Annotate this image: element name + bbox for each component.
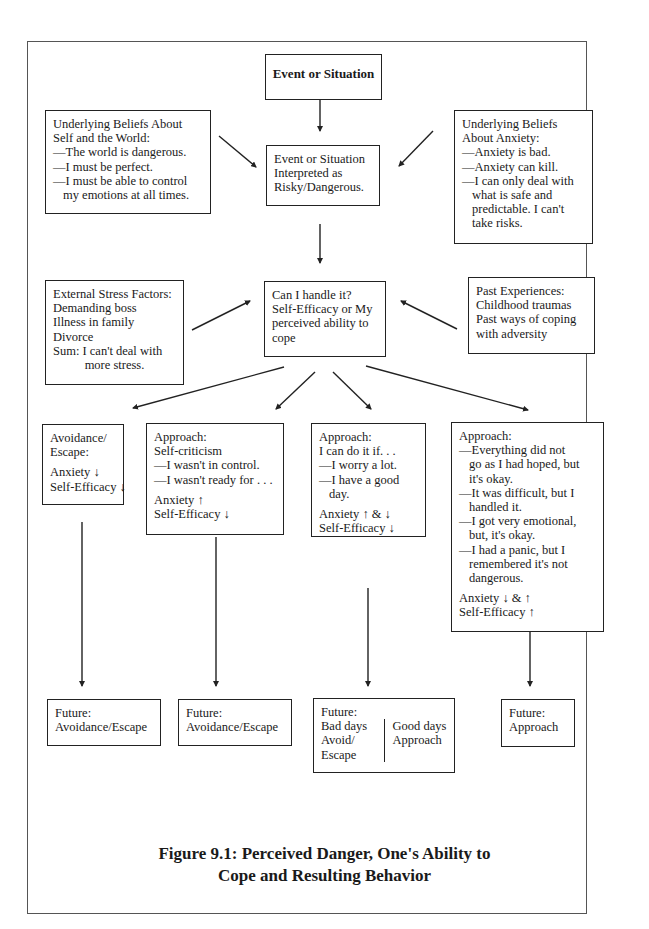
anxiety-indicator: Anxiety ↑: [154, 493, 276, 507]
node-approach-acceptance: Approach: —Everything did not go as I ha…: [451, 422, 604, 632]
text-line: Future:: [186, 706, 284, 720]
text-line: —I must be perfect.: [53, 160, 203, 174]
text-line: Self-criticism: [154, 444, 276, 458]
node-beliefs-self-world: Underlying Beliefs About Self and the Wo…: [45, 110, 211, 214]
text-line: take risks.: [462, 216, 585, 230]
text-line: Childhood traumas: [476, 298, 587, 312]
text-line: Risky/Dangerous.: [274, 180, 372, 194]
text-line: Can I handle it?: [272, 288, 378, 302]
node-approach-conditional: Approach: I can do it if. . . —I worry a…: [311, 423, 426, 537]
column-divider: [384, 719, 385, 762]
node-approach-self-criticism: Approach: Self-criticism —I wasn't in co…: [146, 423, 284, 535]
text-line: my emotions at all times.: [53, 188, 203, 202]
node-title: Event or Situation: [273, 66, 375, 81]
text-line: Future:: [55, 706, 153, 720]
anxiety-indicator: Anxiety ↓ & ↑: [459, 591, 596, 605]
text-line: —I can only deal with: [462, 174, 585, 188]
text-line: Approach: [393, 733, 448, 747]
text-line: Approach:: [154, 430, 276, 444]
node-self-efficacy: Can I handle it? Self-Efficacy or My per…: [264, 281, 386, 357]
text-line: remembered it's not: [459, 557, 596, 571]
text-line: Approach: [509, 720, 567, 734]
text-line: but, it's okay.: [459, 528, 596, 542]
good-days-column: Good days Approach: [393, 719, 448, 762]
text-line: —The world is dangerous.: [53, 145, 203, 159]
node-past-experiences: Past Experiences: Childhood traumas Past…: [468, 277, 595, 354]
text-line: Underlying Beliefs: [462, 117, 585, 131]
text-line: Avoidance/Escape: [186, 720, 284, 734]
node-avoidance-escape: Avoidance/ Escape: Anxiety ↓ Self-Effica…: [42, 424, 124, 505]
self-efficacy-indicator: Self-Efficacy ↓: [319, 521, 418, 535]
text-line: more stress.: [53, 358, 176, 372]
text-line: dangerous.: [459, 571, 596, 585]
node-external-stress: External Stress Factors: Demanding boss …: [45, 280, 184, 385]
text-line: Event or Situation: [274, 152, 372, 166]
text-line: Illness in family: [53, 315, 176, 329]
text-line: I can do it if. . .: [319, 444, 418, 458]
node-future-approach: Future: Approach: [501, 699, 575, 747]
node-future-mixed: Future: Bad days Avoid/ Escape Good days…: [313, 698, 455, 773]
node-event-or-situation: Event or Situation: [265, 54, 382, 100]
text-line: —Anxiety can kill.: [462, 160, 585, 174]
node-future-avoidance-1: Future: Avoidance/Escape: [47, 699, 161, 746]
text-line: Approach:: [319, 430, 418, 444]
text-line: About Anxiety:: [462, 131, 585, 145]
figure-caption: Figure 9.1: Perceived Danger, One's Abil…: [0, 843, 649, 887]
text-line: Underlying Beliefs About: [53, 117, 203, 131]
text-line: Self-Efficacy or My: [272, 302, 378, 316]
text-line: Avoidance/: [50, 431, 116, 445]
text-line: cope: [272, 331, 378, 345]
future-split: Bad days Avoid/ Escape Good days Approac…: [321, 719, 447, 762]
self-efficacy-indicator: Self-Efficacy ↑: [459, 605, 596, 619]
text-line: Escape:: [50, 445, 116, 459]
text-line: Future:: [509, 706, 567, 720]
node-future-avoidance-2: Future: Avoidance/Escape: [178, 699, 292, 746]
text-line: —Anxiety is bad.: [462, 145, 585, 159]
text-line: Avoid/: [321, 733, 376, 747]
text-line: Divorce: [53, 330, 176, 344]
text-line: —It was difficult, but I: [459, 486, 596, 500]
text-line: Future:: [321, 705, 447, 719]
text-line: External Stress Factors:: [53, 287, 176, 301]
text-line: —I got very emotional,: [459, 514, 596, 528]
text-line: Good days: [393, 719, 448, 733]
text-line: predictable. I can't: [462, 202, 585, 216]
text-line: with adversity: [476, 327, 587, 341]
text-line: —I had a panic, but I: [459, 543, 596, 557]
text-line: Past ways of coping: [476, 312, 587, 326]
text-line: Avoidance/Escape: [55, 720, 153, 734]
caption-line-2: Cope and Resulting Behavior: [0, 865, 649, 887]
text-line: Interpreted as: [274, 166, 372, 180]
text-line: —I have a good: [319, 473, 418, 487]
bad-days-column: Bad days Avoid/ Escape: [321, 719, 376, 762]
text-line: day.: [319, 487, 418, 501]
text-line: —I wasn't in control.: [154, 458, 276, 472]
text-line: Self and the World:: [53, 131, 203, 145]
anxiety-indicator: Anxiety ↑ & ↓: [319, 507, 418, 521]
caption-line-1: Figure 9.1: Perceived Danger, One's Abil…: [0, 843, 649, 865]
text-line: handled it.: [459, 500, 596, 514]
node-beliefs-anxiety: Underlying Beliefs About Anxiety: —Anxie…: [454, 110, 593, 244]
text-line: perceived ability to: [272, 316, 378, 330]
text-line: what is safe and: [462, 188, 585, 202]
text-line: —I worry a lot.: [319, 458, 418, 472]
text-line: —I wasn't ready for . . .: [154, 473, 276, 487]
text-line: Approach:: [459, 429, 596, 443]
text-line: Past Experiences:: [476, 284, 587, 298]
text-line: Sum: I can't deal with: [53, 344, 176, 358]
self-efficacy-indicator: Self-Efficacy ↓: [154, 507, 276, 521]
text-line: Demanding boss: [53, 301, 176, 315]
self-efficacy-indicator: Self-Efficacy ↓: [50, 480, 116, 494]
text-line: Bad days: [321, 719, 376, 733]
anxiety-indicator: Anxiety ↓: [50, 465, 116, 479]
text-line: —Everything did not: [459, 443, 596, 457]
text-line: —I must be able to control: [53, 174, 203, 188]
text-line: it's okay.: [459, 472, 596, 486]
node-interpreted-risky: Event or Situation Interpreted as Risky/…: [266, 145, 380, 206]
text-line: Escape: [321, 748, 376, 762]
text-line: go as I had hoped, but: [459, 457, 596, 471]
